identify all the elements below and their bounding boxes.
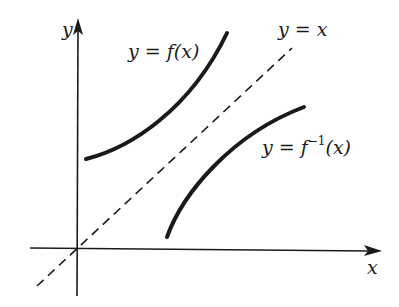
f-inverse-label-exponent: −1 (308, 134, 326, 148)
f-inverse-label-prefix: y = f (262, 136, 308, 158)
f-inverse-curve-label: y = f−1(x) (262, 137, 351, 157)
y-axis (77, 30, 78, 296)
x-axis (30, 248, 370, 251)
inverse-function-diagram: y x y = f(x) y = x y = f−1(x) (0, 0, 399, 307)
identity-line-label: y = x (278, 20, 327, 39)
f-inverse-curve (167, 107, 304, 237)
f-inverse-label-suffix: (x) (325, 136, 351, 158)
f-curve-label: y = f(x) (128, 42, 199, 61)
x-axis-label: x (367, 258, 378, 277)
y-axis-label: y (62, 20, 73, 39)
